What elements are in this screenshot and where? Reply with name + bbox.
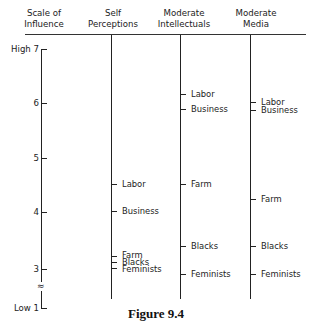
intellectuals-business-tick [180,109,186,110]
figure-caption: Figure 9.4 [0,306,312,322]
column-header-media: Moderate Media [224,8,288,30]
self-blacks-tick [111,262,117,263]
column-header-line2: Perceptions [81,19,145,30]
media-blacks-tick [250,246,256,247]
media-farm-tick [250,199,256,200]
self-feminists-tick [111,268,117,269]
y-tick-4 [41,212,47,213]
media-feminists-label: Feminists [261,270,301,279]
axis-break-icon: ≈ [37,282,45,291]
y-tick-label-3: 3 [0,264,39,274]
column-header-self: Self Perceptions [81,8,145,30]
intellectuals-labor-tick [180,94,186,95]
axis-header-line2: Influence [14,19,74,30]
intellectuals-feminists-label: Feminists [191,270,231,279]
media-business-tick [250,110,256,111]
column-line-self [111,35,112,299]
media-feminists-tick [250,274,256,275]
y-tick-label-5: 5 [0,153,39,163]
column-line-intellectuals [180,35,181,299]
media-blacks-label: Blacks [261,242,288,251]
y-tick-5 [41,158,47,159]
header-rule [25,34,306,35]
column-header-line1: Moderate [224,8,288,19]
self-business-label: Business [122,207,159,216]
self-business-tick [111,211,117,212]
intellectuals-blacks-label: Blacks [191,242,218,251]
intellectuals-blacks-tick [180,246,186,247]
intellectuals-labor-label: Labor [191,90,215,99]
y-tick-3 [41,269,47,270]
axis-header-line1: Scale of [14,8,74,19]
column-line-media [250,35,251,299]
column-header-intellectuals: Moderate Intellectuals [148,8,220,30]
y-tick-7 [41,49,47,50]
self-farm-tick [111,256,117,257]
media-farm-label: Farm [261,195,282,204]
y-tick-label-4: 4 [0,207,39,217]
y-tick-label-7: High 7 [0,44,39,54]
influence-chart: Scale of Influence Self Perceptions Mode… [0,0,312,325]
self-labor-tick [111,184,117,185]
y-tick-label-6: 6 [0,98,39,108]
self-feminists-label: Feminists [122,265,162,274]
intellectuals-business-label: Business [191,105,228,114]
intellectuals-feminists-tick [180,274,186,275]
column-header-line2: Intellectuals [148,19,220,30]
column-header-line1: Moderate [148,8,220,19]
column-header-line2: Media [224,19,288,30]
y-tick-6 [41,103,47,104]
self-labor-label: Labor [122,180,146,189]
intellectuals-farm-tick [180,184,186,185]
intellectuals-farm-label: Farm [191,180,212,189]
media-labor-tick [250,102,256,103]
media-business-label: Business [261,106,298,115]
axis-header: Scale of Influence [14,8,74,30]
column-header-line1: Self [81,8,145,19]
